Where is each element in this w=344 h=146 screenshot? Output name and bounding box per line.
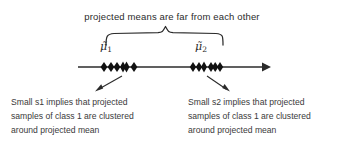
callout-left: Small s1 implies that projected samples … [11, 95, 134, 138]
callout-right-line-1: Small s2 implies that projected [188, 95, 311, 109]
callout-left-line-2: samples of class 1 are clustered [11, 109, 134, 123]
callout-left-line-1: Small s1 implies that projected [11, 95, 134, 109]
mu1-subscript: 1 [107, 45, 112, 54]
cluster-1-markers [101, 62, 138, 73]
mu2-subscript: 2 [202, 45, 207, 54]
mean-label-mu1: μ̃1 [100, 40, 112, 54]
callout-right-line-3: around projected mean [188, 123, 311, 137]
leader-arrow-left [95, 76, 122, 92]
cluster-2-markers [190, 62, 223, 73]
mean-label-mu2: μ̃2 [195, 40, 207, 54]
callout-left-line-3: around projected mean [11, 123, 134, 137]
leader-arrow-right [207, 76, 230, 92]
callout-right: Small s2 implies that projected samples … [188, 95, 311, 138]
callout-right-line-2: samples of class 1 are clustered [188, 109, 311, 123]
figure-canvas: projected means are far from each other [0, 0, 344, 146]
